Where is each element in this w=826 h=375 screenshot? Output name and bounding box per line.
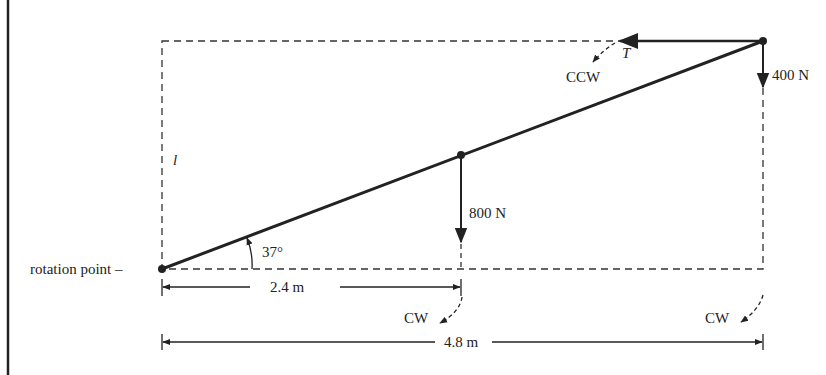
- cw-end-rotation-arrow: [741, 295, 763, 322]
- angle-arc: [247, 238, 252, 269]
- ccw-rotation-arrow: [593, 43, 615, 62]
- dim-full-label: 4.8 m: [444, 334, 479, 350]
- length-symbol-label: l: [173, 152, 177, 168]
- ccw-label: CCW: [566, 69, 601, 85]
- cw-mid-rotation-arrow: [440, 297, 462, 323]
- dim-half-label: 2.4 m: [270, 279, 305, 295]
- tension-label: T: [622, 45, 632, 61]
- angle-label: 37°: [262, 244, 283, 260]
- rotation-point-dot: [158, 265, 166, 273]
- cw-mid-label: CW: [404, 310, 429, 326]
- cw-end-label: CW: [705, 310, 730, 326]
- torque-diagram: 800 N 400 N T CCW 37° rotation point – l…: [0, 0, 826, 375]
- force-400n-label: 400 N: [772, 67, 809, 83]
- force-800n-label: 800 N: [469, 205, 506, 221]
- rotation-point-label: rotation point –: [30, 261, 123, 277]
